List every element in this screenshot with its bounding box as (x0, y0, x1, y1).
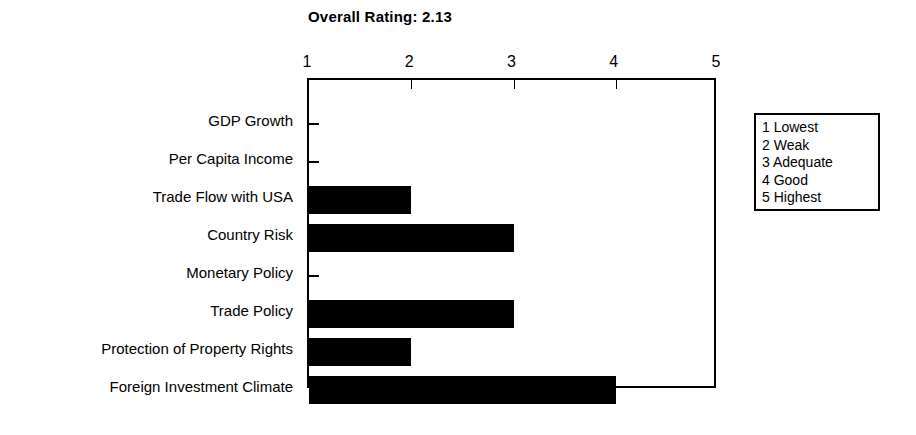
chart-title: Overall Rating: 2.13 (0, 8, 760, 25)
bar-row (309, 262, 718, 290)
bar-row (309, 186, 718, 214)
bar-row (309, 300, 718, 328)
legend-box: 1 Lowest2 Weak3 Adequate4 Good5 Highest (754, 113, 880, 211)
y-tick-mark (309, 161, 319, 163)
x-tick-mark-4 (616, 80, 617, 89)
legend-entry: 4 Good (762, 172, 833, 190)
bar-row (309, 224, 718, 252)
legend-entry: 2 Weak (762, 137, 833, 155)
y-tick-mark (309, 123, 319, 125)
x-axis-tick-labels: 12345 (307, 53, 716, 75)
x-tick-mark-2 (411, 80, 412, 89)
x-tick-label-1: 1 (292, 53, 322, 71)
x-tick-label-5: 5 (701, 53, 731, 71)
category-label: Per Capita Income (169, 150, 293, 168)
category-label: Protection of Property Rights (101, 340, 293, 358)
legend-entry: 3 Adequate (762, 154, 833, 172)
legend-entry: 1 Lowest (762, 119, 833, 137)
bar-row (309, 110, 718, 138)
bar (309, 224, 514, 252)
x-tick-mark-3 (514, 80, 515, 89)
category-label: Country Risk (207, 226, 293, 244)
category-label: Foreign Investment Climate (110, 378, 293, 396)
category-axis-labels: GDP GrowthPer Capita IncomeTrade Flow wi… (0, 78, 300, 388)
legend-list: 1 Lowest2 Weak3 Adequate4 Good5 Highest (762, 119, 833, 207)
x-tick-label-2: 2 (394, 53, 424, 71)
bar-row (309, 376, 718, 404)
x-tick-label-3: 3 (497, 53, 527, 71)
category-label: GDP Growth (208, 112, 293, 130)
bar-row (309, 338, 718, 366)
x-tick-label-4: 4 (599, 53, 629, 71)
bar (309, 300, 514, 328)
category-label: Monetary Policy (186, 264, 293, 282)
bar (309, 376, 616, 404)
category-label: Trade Flow with USA (153, 188, 293, 206)
plot-area (307, 78, 716, 388)
bar (309, 338, 411, 366)
bar (309, 186, 411, 214)
bar-row (309, 148, 718, 176)
category-label: Trade Policy (210, 302, 293, 320)
y-tick-mark (309, 275, 319, 277)
legend-entry: 5 Highest (762, 189, 833, 207)
